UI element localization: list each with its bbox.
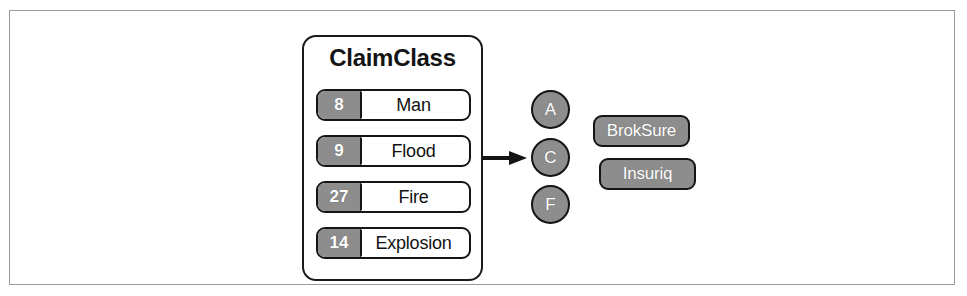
arrow-right-icon <box>483 151 527 165</box>
claim-class-label: Flood <box>362 137 469 165</box>
claimclass-list: 8 Man 9 Flood 27 Fire 14 Explosion <box>316 89 471 273</box>
claim-class-row-fire[interactable]: 27 Fire <box>316 181 471 213</box>
claim-class-row-flood[interactable]: 9 Flood <box>316 135 471 167</box>
outer-frame: ClaimClass 8 Man 9 Flood 27 Fire 14 Expl… <box>9 10 955 285</box>
claim-count-badge: 14 <box>318 229 362 257</box>
code-circle-f[interactable]: F <box>531 185 570 224</box>
system-box-label: BrokSure <box>607 121 676 141</box>
code-circle-c[interactable]: C <box>531 138 570 177</box>
claim-class-row-man[interactable]: 8 Man <box>316 89 471 121</box>
claim-count-badge: 8 <box>318 91 362 119</box>
code-circle-label: C <box>544 148 556 168</box>
code-circle-label: F <box>545 195 555 215</box>
claim-class-label: Fire <box>362 183 469 211</box>
code-circle-label: A <box>545 100 556 120</box>
claim-class-row-explosion[interactable]: 14 Explosion <box>316 227 471 259</box>
claimclass-group-box: ClaimClass 8 Man 9 Flood 27 Fire 14 Expl… <box>302 35 483 281</box>
claim-count-badge: 9 <box>318 137 362 165</box>
claim-count-badge: 27 <box>318 183 362 211</box>
system-box-broksure[interactable]: BrokSure <box>593 115 690 147</box>
system-box-label: Insuriq <box>623 164 673 184</box>
claim-class-label: Explosion <box>362 229 469 257</box>
claimclass-title: ClaimClass <box>304 44 481 72</box>
system-box-insuriq[interactable]: Insuriq <box>599 158 696 190</box>
code-circle-a[interactable]: A <box>531 90 570 129</box>
claim-class-label: Man <box>362 91 469 119</box>
diagram-canvas: ClaimClass 8 Man 9 Flood 27 Fire 14 Expl… <box>0 0 967 296</box>
